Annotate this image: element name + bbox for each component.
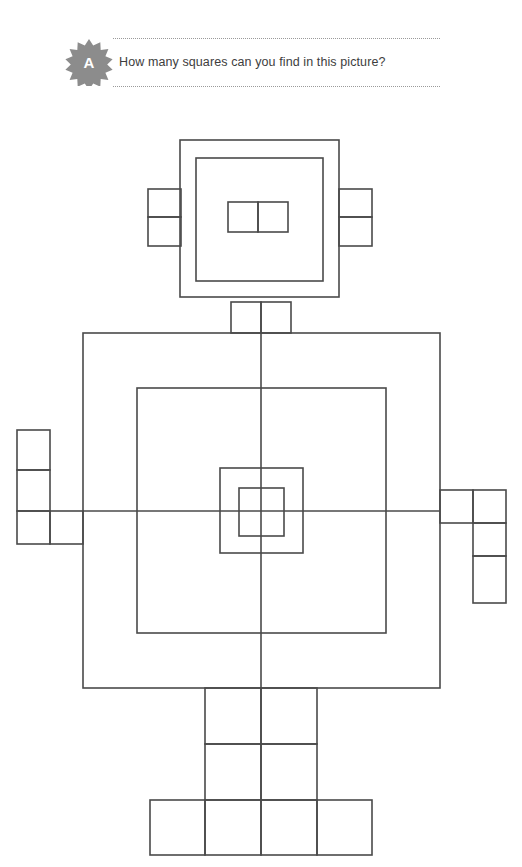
shape-leg-upper-right (261, 688, 317, 744)
robot-squares-puzzle (0, 118, 522, 867)
shape-arm-left-mid (17, 470, 50, 511)
shape-head-inner (196, 158, 323, 281)
shape-ear-right-top (339, 189, 372, 217)
shape-leg-lower-left (205, 744, 261, 800)
shape-arm-right-out-mid (473, 523, 506, 556)
shape-ear-left-top (148, 189, 181, 217)
shape-leg-lower-right (261, 744, 317, 800)
question-header: A How many squares can you find in this … (0, 0, 522, 118)
puzzle-figure-svg (0, 118, 522, 867)
shape-neck-left (231, 302, 261, 333)
question-rule-block: How many squares can you find in this pi… (113, 38, 440, 87)
shape-eye-right (258, 202, 288, 232)
shape-foot-4 (317, 800, 372, 855)
shape-arm-right-out-top (473, 490, 506, 523)
starburst-badge-icon: A (65, 38, 113, 86)
shape-ear-left-bottom (148, 217, 181, 246)
shape-foot-3 (261, 800, 317, 855)
shape-eye-left (228, 202, 258, 232)
question-text: How many squares can you find in this pi… (113, 55, 386, 70)
shape-arm-left-low-a (17, 511, 50, 544)
badge-letter: A (65, 38, 113, 86)
shape-arm-right-in (440, 490, 473, 523)
shape-neck-right (261, 302, 291, 333)
shape-ear-right-bottom (339, 217, 372, 246)
shape-head-outer (180, 140, 339, 297)
shape-arm-left-top (17, 430, 50, 470)
shape-leg-upper-left (205, 688, 261, 744)
shape-foot-1 (150, 800, 205, 855)
shape-foot-2 (205, 800, 261, 855)
shape-arm-right-out-low (473, 556, 506, 603)
shape-arm-left-low-b (50, 511, 83, 544)
